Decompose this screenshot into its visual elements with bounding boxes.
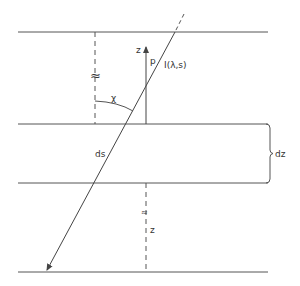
approx-lower-symbol: ≈: [141, 208, 148, 217]
intensity-label: I(λ,s): [164, 60, 187, 70]
dz-label: dz: [275, 149, 286, 159]
z-axis-label: z: [136, 45, 141, 55]
chi-label: χ: [111, 93, 116, 103]
slab-diagram: z p I(λ,s) χ ds dz ≈ ≈ z: [0, 0, 300, 286]
approx-upper-symbol: ≈: [90, 68, 101, 83]
p-label: p: [150, 56, 156, 66]
z-lower-label: z: [150, 225, 155, 235]
ds-label: ds: [95, 149, 106, 159]
dz-brace: [266, 124, 273, 183]
ray-dashed-extension: [175, 14, 184, 32]
ray-path-arrow: [47, 32, 175, 270]
